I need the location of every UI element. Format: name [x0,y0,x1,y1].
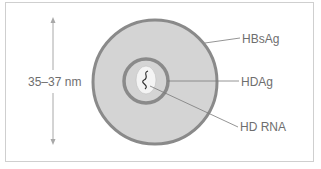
leader-hbsag [205,38,240,43]
size-label: 35–37 nm [28,76,81,88]
label-hdrna: HD RNA [240,121,286,133]
rna-core [136,66,156,94]
label-hbsag: HBsAg [242,33,279,45]
label-hdag: HDAg [241,76,273,88]
